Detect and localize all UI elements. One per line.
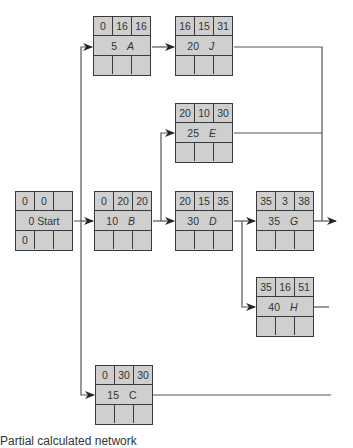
a-name: A: [122, 40, 150, 52]
h-es: 35: [257, 278, 276, 296]
c-ft: 30: [115, 366, 134, 384]
node-g: 35 3 38 35 G: [256, 191, 314, 251]
e-bot-1: [176, 143, 195, 161]
a-bot-2: [113, 56, 132, 74]
node-a: 0 16 16 5 A: [93, 16, 151, 76]
b-bot-1: [95, 231, 114, 249]
h-ft: 16: [276, 278, 295, 296]
g-es: 35: [257, 192, 276, 210]
b-es: 0: [95, 192, 114, 210]
j-es: 16: [176, 17, 195, 35]
node-c: 0 30 30 15 C: [95, 365, 153, 425]
start-bot-3: [54, 231, 72, 249]
edge-start-c: [81, 221, 94, 395]
b-tf: 20: [133, 192, 151, 210]
g-name: G: [285, 215, 313, 227]
g-bot-3: [295, 231, 313, 249]
node-h: 35 16 51 40 H: [256, 277, 314, 337]
d-bot-2: [195, 231, 214, 249]
node-d: 20 15 35 30 D: [175, 191, 233, 251]
c-duration: 15: [96, 389, 124, 401]
start-bot-2: [35, 231, 54, 249]
h-bot-1: [257, 317, 276, 335]
d-es: 20: [176, 192, 195, 210]
d-duration: 30: [176, 215, 204, 227]
b-bot-3: [133, 231, 151, 249]
c-bot-3: [134, 405, 152, 423]
j-bot-2: [195, 56, 214, 74]
c-tf: 30: [134, 366, 152, 384]
start-es: 0: [16, 192, 35, 210]
edge-b-e: [161, 133, 174, 221]
h-tf: 51: [295, 278, 313, 296]
e-bot-3: [214, 143, 232, 161]
g-bot-1: [257, 231, 276, 249]
e-es: 20: [176, 104, 195, 122]
a-bot-3: [132, 56, 150, 74]
d-ft: 15: [195, 192, 214, 210]
g-bot-2: [276, 231, 295, 249]
start-ef: 0: [35, 192, 54, 210]
b-name: B: [123, 215, 151, 227]
edge-d-h: [242, 221, 255, 307]
c-bot-1: [96, 405, 115, 423]
g-tf: 38: [295, 192, 313, 210]
e-duration: 25: [176, 127, 204, 139]
e-bot-2: [195, 143, 214, 161]
node-j: 16 15 31 20 J: [175, 16, 233, 76]
start-label: 0 Start: [29, 215, 60, 227]
a-ft: 16: [113, 17, 132, 35]
node-b: 0 20 20 10 B: [94, 191, 152, 251]
j-bot-1: [176, 56, 195, 74]
d-bot-1: [176, 231, 195, 249]
node-e: 20 10 30 25 E: [175, 103, 233, 163]
c-bot-2: [115, 405, 134, 423]
h-bot-2: [276, 317, 295, 335]
c-es: 0: [96, 366, 115, 384]
j-name: J: [204, 40, 232, 52]
figure-caption: Partial calculated network: [0, 434, 137, 448]
a-tf: 16: [132, 17, 150, 35]
c-name: C: [124, 389, 152, 401]
e-tf: 30: [214, 104, 232, 122]
d-name: D: [204, 215, 232, 227]
b-duration: 10: [95, 215, 123, 227]
start-ls: 0: [16, 231, 35, 249]
g-ft: 3: [276, 192, 295, 210]
j-bot-3: [214, 56, 232, 74]
g-duration: 35: [257, 215, 285, 227]
d-tf: 35: [214, 192, 232, 210]
j-tf: 31: [214, 17, 232, 35]
edge-start-a: [74, 47, 92, 221]
e-ft: 10: [195, 104, 214, 122]
a-duration: 5: [94, 40, 122, 52]
start-empty: [54, 192, 72, 210]
a-es: 0: [94, 17, 113, 35]
b-ft: 20: [114, 192, 133, 210]
h-name: H: [285, 301, 313, 313]
j-ft: 15: [195, 17, 214, 35]
a-bot-1: [94, 56, 113, 74]
e-name: E: [204, 127, 232, 139]
b-bot-2: [114, 231, 133, 249]
h-duration: 40: [257, 301, 285, 313]
j-duration: 20: [176, 40, 204, 52]
h-bot-3: [295, 317, 313, 335]
d-bot-3: [214, 231, 232, 249]
node-start: 0 0 0 Start 0: [15, 191, 73, 251]
